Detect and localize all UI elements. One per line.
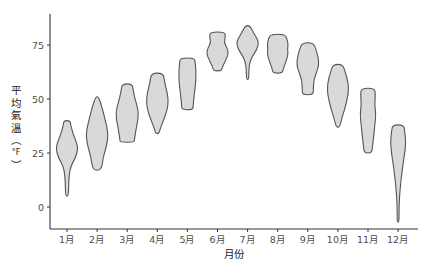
x-tick-label: 4月 [149,234,165,245]
violin-12 [391,125,406,222]
y-axis-title-char: 溫 [9,122,23,135]
violin-11 [360,88,375,153]
y-tick-label: 0 [38,202,44,213]
x-tick-label: 6月 [209,234,225,245]
violin-5 [179,58,196,110]
x-tick-label: 9月 [300,234,316,245]
x-tick-label: 1月 [59,234,75,245]
x-tick-label: 5月 [179,234,195,245]
violin-2 [86,97,107,171]
y-axis-title-char: 均 [9,97,23,110]
plot-area [56,26,405,223]
violin-7 [237,26,258,80]
violin-9 [297,43,319,95]
y-tick-label: 50 [32,94,44,105]
violin-chart: 0255075 1月2月3月4月5月6月7月8月9月10月11月12月 月份 [0,0,427,273]
x-tick-label: 7月 [240,234,256,245]
violin-1 [56,121,77,197]
y-tick-label: 75 [32,40,44,51]
y-axis-ticks: 0255075 [32,40,50,213]
violin-10 [328,64,349,127]
y-axis-title-char: ︵ [9,134,23,147]
violin-8 [267,34,287,73]
x-axis-title: 月份 [224,248,245,260]
violin-6 [207,32,228,71]
y-axis-title-char: °F [9,147,23,160]
x-tick-label: 11月 [357,234,379,245]
y-tick-label: 25 [32,148,44,159]
x-tick-label: 2月 [89,234,105,245]
x-tick-label: 8月 [270,234,286,245]
violin-3 [116,84,138,142]
y-axis-title-char: 平 [9,84,23,97]
y-axis-title: 平 均 氣 溫 ︵ °F ︶ [9,84,23,172]
x-tick-label: 3月 [119,234,135,245]
y-axis-title-char: ︶ [9,159,23,172]
violin-4 [147,73,168,134]
x-axis-ticks: 1月2月3月4月5月6月7月8月9月10月11月12月 [59,229,409,245]
x-tick-label: 12月 [387,234,409,245]
y-axis-title-char: 氣 [9,109,23,122]
x-tick-label: 10月 [327,234,349,245]
